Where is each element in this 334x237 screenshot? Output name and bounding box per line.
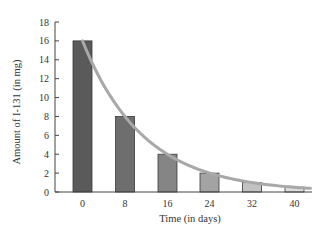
- y-tick-label: 0: [44, 187, 49, 198]
- x-tick-label: 16: [163, 198, 173, 209]
- y-axis-ticks: 024681012141618: [39, 17, 59, 198]
- y-tick-label: 10: [39, 92, 49, 103]
- y-tick-label: 16: [39, 35, 49, 46]
- x-tick-label: 8: [123, 198, 128, 209]
- y-tick-label: 4: [44, 149, 49, 160]
- x-axis-tick-labels: 0816243240: [80, 198, 300, 209]
- x-tick-label: 24: [205, 198, 215, 209]
- decay-bar-chart: 024681012141618 0816243240 Time (in days…: [0, 0, 334, 237]
- x-tick-label: 40: [290, 198, 300, 209]
- y-tick-label: 8: [44, 111, 49, 122]
- x-tick-label: 32: [247, 198, 257, 209]
- x-tick-label: 0: [80, 198, 85, 209]
- bar-0: [73, 41, 92, 192]
- y-tick-label: 6: [44, 130, 49, 141]
- y-tick-label: 2: [44, 168, 49, 179]
- y-tick-label: 18: [39, 17, 49, 28]
- y-tick-label: 12: [39, 73, 49, 84]
- bar-8: [116, 116, 135, 192]
- bars: [73, 41, 304, 192]
- y-tick-label: 14: [39, 54, 49, 65]
- x-axis-label: Time (in days): [159, 213, 221, 225]
- y-axis-label: Amount of I-131 (in mg): [11, 59, 23, 164]
